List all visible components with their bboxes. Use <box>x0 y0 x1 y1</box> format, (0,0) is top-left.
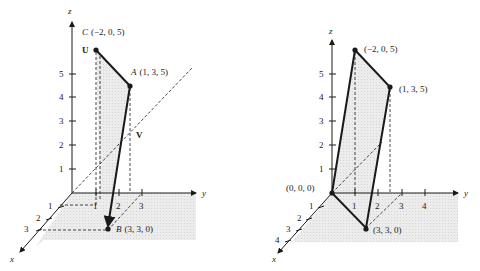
z-tick-3: 3 <box>59 116 64 126</box>
x-tick-3: 3 <box>24 224 29 234</box>
z-tick-1: 1 <box>319 164 324 174</box>
y-tick-3: 3 <box>139 201 144 211</box>
right-figure: z y x 1 2 3 4 5 1 2 3 4 1 2 3 4 <box>271 26 468 264</box>
z-axis-label: z <box>67 6 72 16</box>
y-tick-2: 2 <box>375 201 380 211</box>
x-tick-2: 2 <box>297 213 302 223</box>
x-tick-3: 3 <box>286 224 291 234</box>
y-tick-2: 2 <box>116 201 121 211</box>
left-figure: z y x 1 2 3 4 5 1 2 3 1 2 3 <box>9 6 206 264</box>
y-tick-4: 4 <box>422 201 427 211</box>
point-origin-label: (0, 0, 0) <box>286 183 315 193</box>
z-axis-label: z <box>328 26 333 36</box>
point-p2 <box>387 84 392 89</box>
point-b <box>105 226 110 231</box>
y-tick-1: 1 <box>352 201 357 211</box>
x-axis-label: x <box>9 254 14 264</box>
z-tick-4: 4 <box>319 92 324 102</box>
x-axis-label: x <box>271 254 276 264</box>
z-tick-5: 5 <box>319 69 324 79</box>
z-tick-3: 3 <box>319 116 324 126</box>
point-a-label: A(1, 3, 5) <box>130 67 168 77</box>
point-origin <box>329 190 334 195</box>
point-c <box>93 47 98 52</box>
z-tick-1: 1 <box>59 164 64 174</box>
vector-u-label: U <box>82 45 89 55</box>
x-tick-1: 1 <box>309 201 314 211</box>
vector-v-label: V <box>136 130 143 140</box>
y-axis-label: y <box>201 188 206 198</box>
point-p1 <box>352 47 357 52</box>
diagram-canvas: z y x 1 2 3 4 5 1 2 3 1 2 3 <box>0 0 480 271</box>
z-tick-2: 2 <box>319 140 324 150</box>
x-tick-4: 4 <box>275 235 280 245</box>
point-p2-label: (1, 3, 5) <box>399 84 428 94</box>
point-p3 <box>363 226 368 231</box>
z-tick-5: 5 <box>59 69 64 79</box>
y-tick-1: 1 <box>93 201 98 211</box>
x-tick-1: 1 <box>48 201 53 211</box>
point-c-label: C(−2, 0, 5) <box>82 27 125 37</box>
point-p1-label: (−2, 0, 5) <box>364 44 398 54</box>
z-tick-4: 4 <box>59 92 64 102</box>
z-tick-2: 2 <box>59 140 64 150</box>
point-a <box>127 83 132 88</box>
y-axis-label: y <box>463 188 468 198</box>
x-tick-2: 2 <box>36 213 41 223</box>
y-tick-3: 3 <box>399 201 404 211</box>
point-p3-label: (3, 3, 0) <box>373 225 402 235</box>
